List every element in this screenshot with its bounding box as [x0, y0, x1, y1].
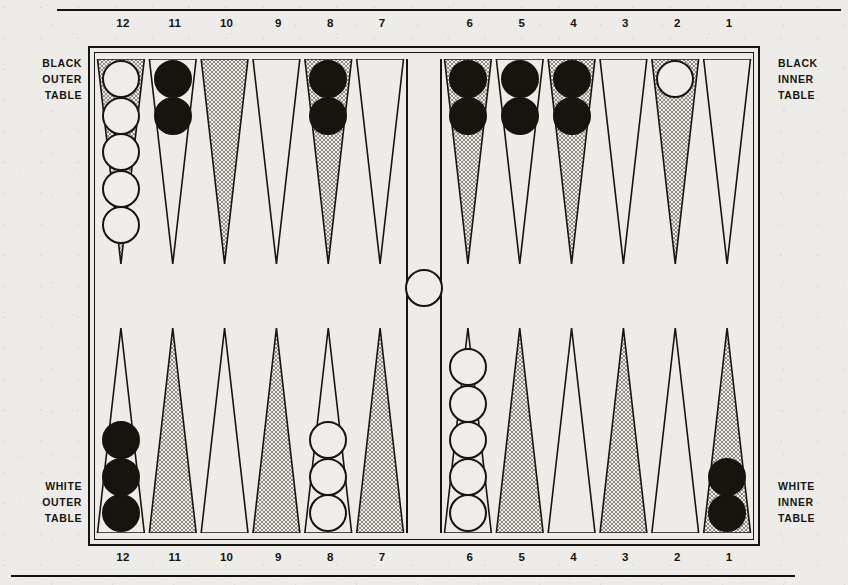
- point-number-10: 10: [207, 17, 247, 29]
- label-black-inner-table: BLACK INNER TABLE: [778, 55, 844, 103]
- checker-white-bar-1[interactable]: [405, 269, 443, 307]
- point-number-5: 5: [502, 17, 542, 29]
- checker-white-top-12-5[interactable]: [102, 206, 140, 244]
- checker-black-top-11-1[interactable]: [154, 60, 192, 98]
- point-number-7: 7: [362, 17, 402, 29]
- point-number-11: 11: [155, 17, 195, 29]
- point-number-4: 4: [554, 551, 594, 563]
- point-bottom-2: [652, 328, 699, 533]
- point-number-9: 9: [258, 17, 298, 29]
- checker-black-top-6-2[interactable]: [449, 97, 487, 135]
- playing-surface: [95, 59, 753, 533]
- point-top-1: [704, 59, 751, 264]
- checker-white-top-12-1[interactable]: [102, 60, 140, 98]
- point-top-3: [600, 59, 647, 264]
- top-horizontal-rule: [57, 9, 841, 11]
- checker-white-bottom-6-5[interactable]: [449, 348, 487, 386]
- checker-white-bottom-8-2[interactable]: [309, 458, 347, 496]
- point-number-9: 9: [258, 551, 298, 563]
- point-bottom-7: [357, 328, 404, 533]
- checker-black-top-8-1[interactable]: [309, 60, 347, 98]
- point-top-9: [253, 59, 300, 264]
- checker-black-top-4-2[interactable]: [553, 97, 591, 135]
- point-number-3: 3: [605, 17, 645, 29]
- checker-white-bottom-6-1[interactable]: [449, 494, 487, 532]
- checker-black-top-5-2[interactable]: [501, 97, 539, 135]
- checker-white-bottom-8-3[interactable]: [309, 421, 347, 459]
- checker-black-top-5-1[interactable]: [501, 60, 539, 98]
- point-bottom-11: [149, 328, 196, 533]
- point-number-6: 6: [450, 17, 490, 29]
- point-number-4: 4: [554, 17, 594, 29]
- point-bottom-10: [201, 328, 248, 533]
- point-number-11: 11: [155, 551, 195, 563]
- point-number-2: 2: [657, 17, 697, 29]
- checker-black-top-6-1[interactable]: [449, 60, 487, 98]
- checker-black-bottom-12-1[interactable]: [102, 494, 140, 532]
- checker-white-top-12-4[interactable]: [102, 170, 140, 208]
- point-number-2: 2: [657, 551, 697, 563]
- checker-black-bottom-1-1[interactable]: [708, 494, 746, 532]
- backgammon-diagram-page: 121110987654321 121110987654321 BLACK OU…: [0, 0, 848, 585]
- checker-black-top-4-1[interactable]: [553, 60, 591, 98]
- label-white-inner-table: WHITE INNER TABLE: [778, 478, 844, 526]
- point-bottom-9: [253, 328, 300, 533]
- checker-black-top-11-2[interactable]: [154, 97, 192, 135]
- checker-white-bottom-8-1[interactable]: [309, 494, 347, 532]
- checker-white-bottom-6-4[interactable]: [449, 385, 487, 423]
- point-number-3: 3: [605, 551, 645, 563]
- point-number-scale-bottom: 121110987654321: [90, 551, 758, 569]
- point-number-12: 12: [103, 17, 143, 29]
- point-number-scale-top: 121110987654321: [90, 17, 758, 35]
- point-number-12: 12: [103, 551, 143, 563]
- point-number-1: 1: [709, 551, 749, 563]
- point-bottom-3: [600, 328, 647, 533]
- point-bottom-5: [496, 328, 543, 533]
- checker-white-bottom-6-3[interactable]: [449, 421, 487, 459]
- checker-white-top-12-3[interactable]: [102, 133, 140, 171]
- label-white-outer-table: WHITE OUTER TABLE: [16, 478, 82, 526]
- checker-black-bottom-12-2[interactable]: [102, 458, 140, 496]
- point-number-10: 10: [207, 551, 247, 563]
- checker-black-bottom-1-2[interactable]: [708, 458, 746, 496]
- checker-white-top-2-1[interactable]: [656, 60, 694, 98]
- bottom-horizontal-rule: [11, 575, 795, 577]
- label-black-outer-table: BLACK OUTER TABLE: [16, 55, 82, 103]
- point-top-7: [357, 59, 404, 264]
- point-number-8: 8: [310, 17, 350, 29]
- point-number-7: 7: [362, 551, 402, 563]
- point-top-10: [201, 59, 248, 264]
- checker-black-top-8-2[interactable]: [309, 97, 347, 135]
- point-number-1: 1: [709, 17, 749, 29]
- checker-black-bottom-12-3[interactable]: [102, 421, 140, 459]
- point-bottom-4: [548, 328, 595, 533]
- point-number-6: 6: [450, 551, 490, 563]
- point-number-8: 8: [310, 551, 350, 563]
- checker-white-top-12-2[interactable]: [102, 97, 140, 135]
- point-number-5: 5: [502, 551, 542, 563]
- checker-white-bottom-6-2[interactable]: [449, 458, 487, 496]
